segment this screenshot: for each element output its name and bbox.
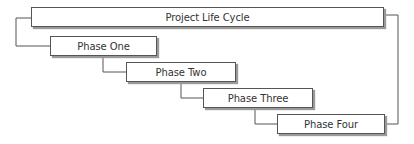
phase-two-box: Phase Two xyxy=(126,62,236,82)
phase-one-box: Phase One xyxy=(50,36,157,56)
connector-phase-four-to-project xyxy=(384,15,398,124)
phase-two-label: Phase Two xyxy=(156,67,207,78)
connector-phase-two-to-three xyxy=(181,81,203,98)
connector-phase-one-to-two xyxy=(103,55,126,72)
connector-phase-three-to-four xyxy=(255,107,277,124)
phase-three-label: Phase Three xyxy=(228,93,289,104)
phase-four-label: Phase Four xyxy=(304,119,358,130)
project-life-cycle-box: Project Life Cycle xyxy=(31,7,384,27)
project-life-cycle-label: Project Life Cycle xyxy=(165,12,249,23)
phase-four-box: Phase Four xyxy=(277,114,385,134)
phase-one-label: Phase One xyxy=(77,41,130,52)
phase-three-box: Phase Three xyxy=(203,88,313,108)
